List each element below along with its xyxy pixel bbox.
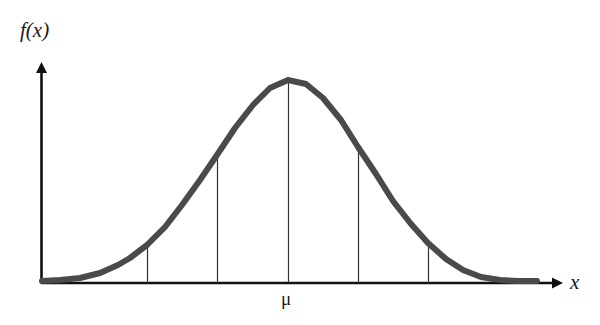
bell-curve-figure: f(x) x μ (0, 0, 600, 325)
y-axis (36, 62, 47, 283)
x-axis-label: x (570, 272, 579, 293)
mean-tick-label: μ (281, 289, 291, 308)
y-axis-arrowhead (36, 62, 47, 73)
gaussian-curve (42, 80, 537, 281)
vertical-gridlines-group (148, 82, 429, 283)
bell-curve-plot (0, 0, 600, 325)
x-axis-arrowhead (552, 278, 563, 289)
y-axis-label: f(x) (20, 20, 49, 41)
